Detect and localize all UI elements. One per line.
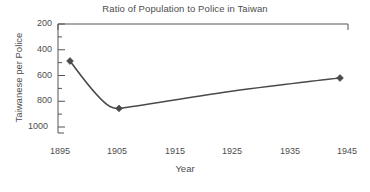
y-axis-title: Taiwanese per Police [13, 18, 24, 138]
data-point-markers [67, 58, 344, 112]
xtick-label-1905: 1905 [97, 146, 137, 156]
data-point-1905 [116, 105, 123, 112]
data-line-series-1 [70, 61, 340, 109]
xtick-label-1935: 1935 [270, 146, 310, 156]
xtick-label-1925: 1925 [212, 146, 252, 156]
x-axis-title: Year [0, 163, 370, 174]
xtick-label-1895: 1895 [40, 146, 80, 156]
y-axis-major-ticks [58, 24, 65, 127]
chart-figure: Ratio of Population to Police in Taiwan [0, 0, 370, 192]
xtick-label-1945: 1945 [327, 146, 367, 156]
xtick-label-1915: 1915 [155, 146, 195, 156]
footer-caption [47, 185, 297, 192]
data-point-1944 [337, 75, 344, 82]
